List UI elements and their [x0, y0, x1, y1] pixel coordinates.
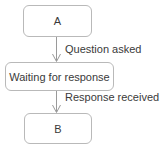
edge-question-asked — [53, 37, 61, 62]
edge-label-question-asked: Question asked — [65, 43, 141, 55]
node-a[interactable]: A — [23, 5, 92, 37]
edge-response-received — [53, 91, 61, 113]
diagram-canvas: A Waiting for response B Question asked … — [0, 0, 161, 149]
node-a-label: A — [54, 15, 61, 27]
node-b[interactable]: B — [24, 113, 92, 144]
node-b-label: B — [54, 123, 61, 135]
node-waiting-for-response[interactable]: Waiting for response — [5, 62, 114, 91]
node-waiting-label: Waiting for response — [9, 71, 109, 83]
edge-label-response-received: Response received — [65, 91, 159, 103]
